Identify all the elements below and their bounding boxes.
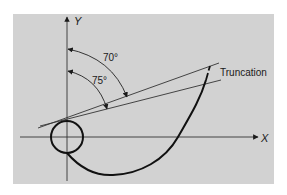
- x-axis-label: X: [260, 132, 269, 144]
- truncation-label: Truncation: [220, 67, 267, 78]
- angle-label-75: 75°: [92, 75, 107, 86]
- diagram-panel: [13, 14, 274, 184]
- y-axis-label: Y: [74, 15, 82, 27]
- angle-label-70: 70°: [103, 52, 118, 63]
- diagram: X Y 70° 75° Truncation: [0, 0, 287, 195]
